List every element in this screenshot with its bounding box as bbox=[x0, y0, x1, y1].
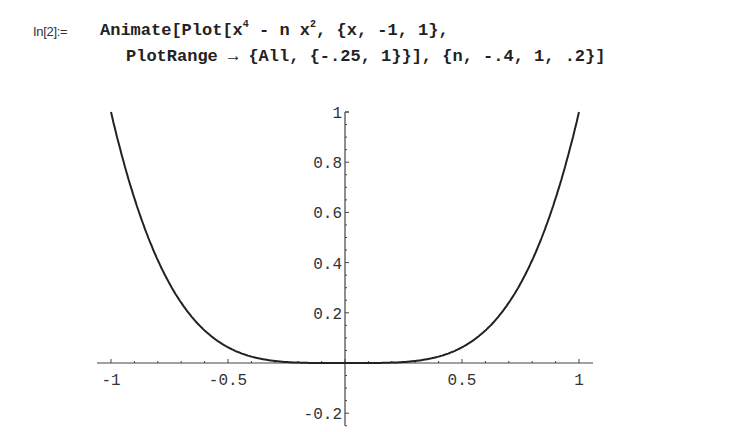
x-tick-label: 1 bbox=[574, 372, 584, 390]
y-tick-label: -0.2 bbox=[304, 406, 342, 424]
plot-area: -1-0.50.51-0.20.20.40.60.81 bbox=[0, 0, 754, 432]
y-tick-label: 0.8 bbox=[313, 155, 342, 173]
y-tick-label: 1 bbox=[332, 105, 342, 123]
axes: -1-0.50.51-0.20.20.40.60.81 bbox=[97, 105, 593, 426]
x-tick-label: -1 bbox=[101, 372, 120, 390]
y-tick-label: 0.2 bbox=[313, 306, 342, 324]
x-tick-label: 0.5 bbox=[448, 372, 477, 390]
y-tick-label: 0.4 bbox=[313, 256, 342, 274]
x-tick-label: -0.5 bbox=[209, 372, 247, 390]
y-tick-label: 0.6 bbox=[313, 205, 342, 223]
